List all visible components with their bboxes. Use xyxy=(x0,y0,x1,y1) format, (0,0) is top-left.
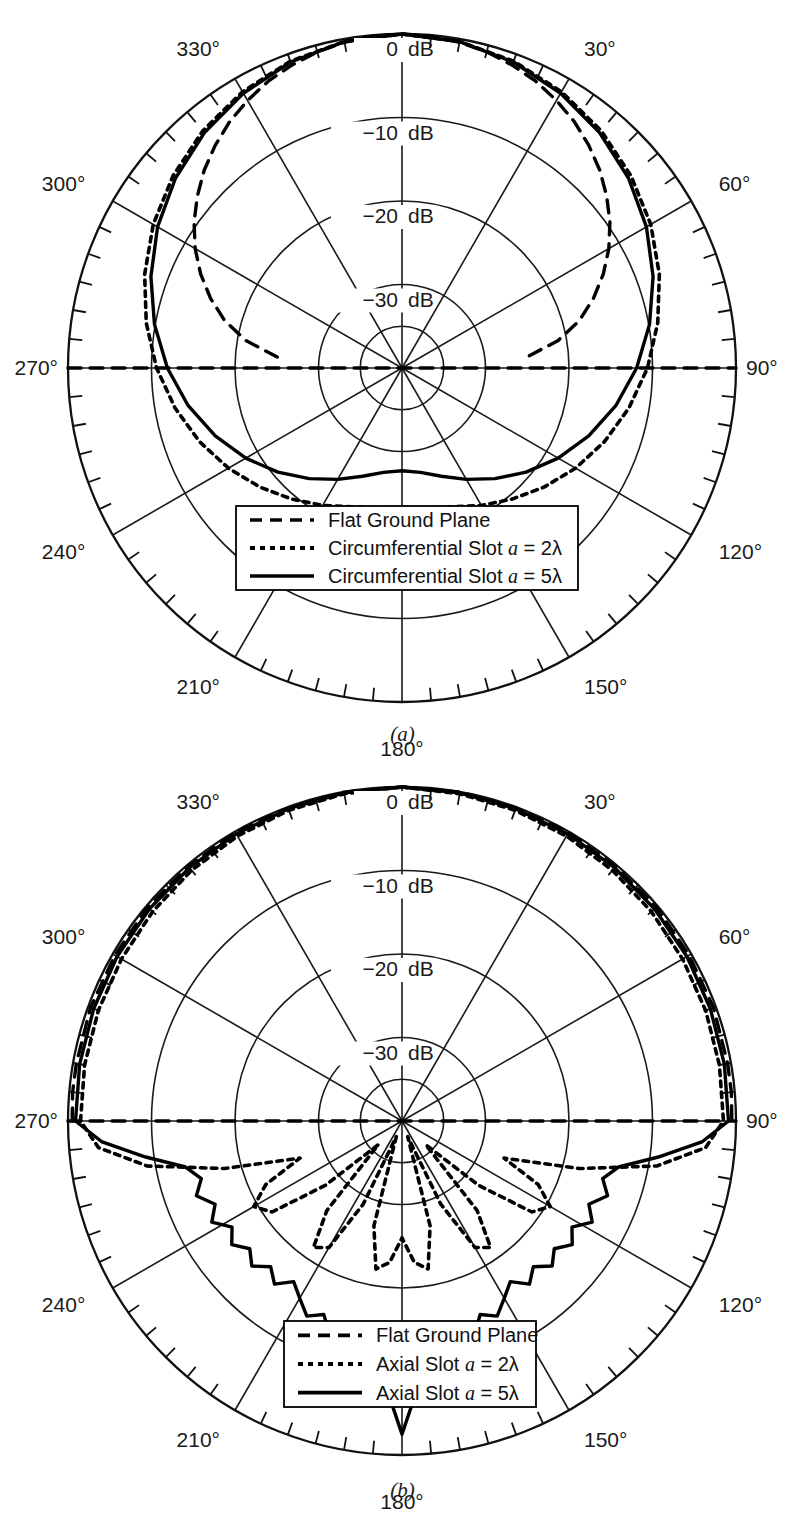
angle-minor-tick xyxy=(146,153,156,161)
angle-minor-tick xyxy=(718,1177,731,1179)
angle-minor-tick xyxy=(128,176,139,183)
legend-label-2: Axial Slot a = 5λ xyxy=(376,1382,519,1404)
radial-label-backing xyxy=(354,38,406,62)
angle-minor-tick xyxy=(166,1348,175,1357)
angle-minor-tick xyxy=(166,132,175,141)
angle-label-90: 90° xyxy=(746,356,778,379)
angle-minor-tick xyxy=(187,614,195,624)
angle-minor-tick xyxy=(485,1431,488,1444)
angle-minor-tick xyxy=(79,451,92,454)
radial-label-unit--10: dB xyxy=(408,874,434,897)
angle-minor-tick xyxy=(316,1431,319,1444)
angle-minor-tick xyxy=(693,227,705,232)
angle-minor-tick xyxy=(608,112,616,122)
angle-minor-tick xyxy=(608,1367,616,1377)
legend-label-1: Circumferential Slot a = 2λ xyxy=(328,537,562,559)
radial-label--10: −10 xyxy=(362,121,398,144)
angle-minor-tick xyxy=(73,424,86,426)
angle-minor-tick xyxy=(538,659,543,671)
polar-chart-b: 0°30°60°90°120°150°180°210°240°270°300°3… xyxy=(0,755,805,1527)
angle-minor-tick xyxy=(718,310,731,312)
angle-label-30: 30° xyxy=(584,790,616,813)
polar-plot-b-svg: 0°30°60°90°120°150°180°210°240°270°300°3… xyxy=(0,755,805,1527)
angle-minor-tick xyxy=(261,659,266,671)
angle-minor-tick xyxy=(79,1204,92,1207)
angle-minor-tick xyxy=(128,552,139,559)
angle-minor-tick xyxy=(99,227,111,232)
angle-minor-tick xyxy=(99,1257,111,1262)
angle-minor-tick xyxy=(187,112,195,122)
angle-minor-tick xyxy=(73,1177,86,1179)
angle-minor-tick xyxy=(629,595,638,604)
angle-minor-tick xyxy=(458,684,460,697)
angle-minor-tick xyxy=(693,1257,705,1262)
angle-label-270: 270° xyxy=(15,356,58,379)
legend-label-0: Flat Ground Plane xyxy=(328,509,490,531)
grid-spoke xyxy=(113,1121,402,1288)
radial-label-unit-0: dB xyxy=(408,37,434,60)
legend: Flat Ground PlaneCircumferential Slot a … xyxy=(236,506,578,590)
angle-minor-tick xyxy=(704,478,716,482)
angle-label-270: 270° xyxy=(15,1109,58,1132)
angle-label-90: 90° xyxy=(746,1109,778,1132)
radial-label-unit-0: dB xyxy=(408,790,434,813)
angle-label-60: 60° xyxy=(719,172,751,195)
figure-caption-b: (b) xyxy=(0,1478,805,1503)
angle-minor-tick xyxy=(210,631,217,642)
angle-minor-tick xyxy=(712,282,725,285)
radial-label-unit--10: dB xyxy=(408,121,434,144)
angle-minor-tick xyxy=(261,1412,266,1424)
angle-minor-tick xyxy=(629,132,638,141)
legend-label-0: Flat Ground Plane xyxy=(376,1324,538,1346)
angle-minor-tick xyxy=(648,574,658,582)
angle-label-120: 120° xyxy=(719,540,762,563)
angle-minor-tick xyxy=(538,1412,543,1424)
angle-minor-tick xyxy=(187,1367,195,1377)
radial-label-0: 0 xyxy=(386,790,398,813)
angle-label-240: 240° xyxy=(42,1293,85,1316)
radial-label--20: −20 xyxy=(362,204,398,227)
angle-minor-tick xyxy=(373,1441,374,1454)
angle-minor-tick xyxy=(722,1149,735,1150)
angle-minor-tick xyxy=(704,1231,716,1235)
angle-minor-tick xyxy=(128,1305,139,1312)
angle-minor-tick xyxy=(210,1384,217,1395)
radial-label--10: −10 xyxy=(362,874,398,897)
angle-minor-tick xyxy=(288,670,292,682)
radial-label--20: −20 xyxy=(362,957,398,980)
angle-minor-tick xyxy=(629,1348,638,1357)
angle-minor-tick xyxy=(665,1305,676,1312)
angle-minor-tick xyxy=(79,282,92,285)
angle-minor-tick xyxy=(712,1204,725,1207)
angle-label-330: 330° xyxy=(177,790,220,813)
polar-chart-a: 0°30°60°90°120°150°180°210°240°270°300°3… xyxy=(0,0,805,760)
angle-minor-tick xyxy=(69,339,82,340)
radial-label-unit--20: dB xyxy=(408,204,434,227)
angle-label-0: 0° xyxy=(392,0,412,2)
angle-label-30: 30° xyxy=(584,37,616,60)
angle-minor-tick xyxy=(586,94,593,105)
radial-label-unit--20: dB xyxy=(408,957,434,980)
angle-minor-tick xyxy=(166,595,175,604)
angle-minor-tick xyxy=(344,1437,346,1450)
angle-minor-tick xyxy=(665,552,676,559)
angle-label-210: 210° xyxy=(177,1428,220,1451)
angle-minor-tick xyxy=(485,678,488,691)
angle-label-300: 300° xyxy=(42,925,85,948)
angle-label-120: 120° xyxy=(719,1293,762,1316)
angle-minor-tick xyxy=(430,1441,431,1454)
angle-minor-tick xyxy=(693,504,705,509)
angle-label-60: 60° xyxy=(719,925,751,948)
radial-label--30: −30 xyxy=(362,1041,398,1064)
angle-minor-tick xyxy=(665,176,676,183)
angle-label-150: 150° xyxy=(584,675,627,698)
angle-minor-tick xyxy=(458,1437,460,1450)
figure-caption-a: (a) xyxy=(0,722,805,747)
angle-minor-tick xyxy=(146,574,156,582)
angle-minor-tick xyxy=(344,684,346,697)
angle-minor-tick xyxy=(69,1149,82,1150)
angle-minor-tick xyxy=(88,478,100,482)
angle-label-210: 210° xyxy=(177,675,220,698)
grid-spoke xyxy=(402,1121,691,1288)
angle-minor-tick xyxy=(73,310,86,312)
